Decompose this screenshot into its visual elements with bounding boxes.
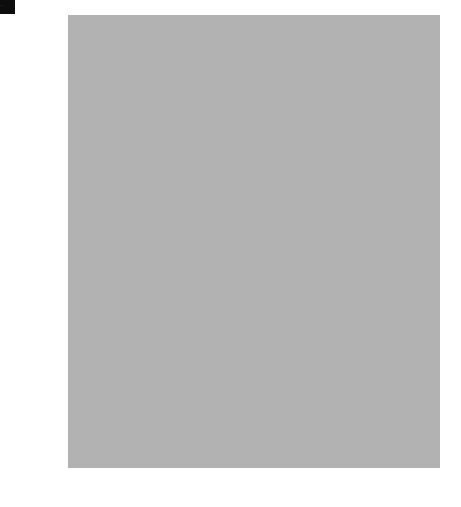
annotation-sigmoidal-ratio [0, 0, 7, 12]
chart-canvas [0, 0, 461, 507]
ratio-denominator [0, 6, 4, 7]
chart-figure [0, 0, 461, 507]
ratio-fraction [0, 4, 4, 7]
